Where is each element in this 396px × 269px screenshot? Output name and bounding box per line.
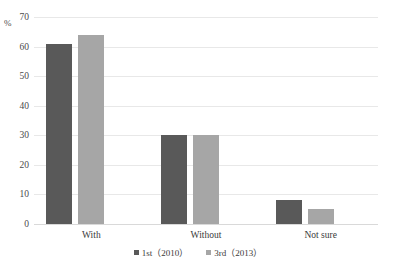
- legend-item-series-1[interactable]: 1st（2010）: [134, 246, 189, 259]
- bar-without-series-2: [193, 135, 219, 224]
- bar-not-sure-series-2: [308, 209, 334, 224]
- y-axis-unit-label: %: [4, 18, 12, 28]
- bar-with-series-2: [78, 35, 104, 224]
- gridline: [34, 224, 378, 225]
- y-axis-tick-label: 60: [20, 42, 30, 52]
- y-axis-tick-label: 10: [20, 189, 30, 199]
- bar-chart: % 010203040506070 WithWithoutNot sure 1s…: [0, 0, 396, 269]
- legend-swatch-series-2-icon: [206, 250, 211, 255]
- x-axis-category-label: With: [82, 230, 101, 240]
- y-axis-tick-label: 30: [20, 130, 30, 140]
- legend-item-series-2[interactable]: 3rd（2013）: [206, 246, 262, 259]
- gridline: [34, 17, 378, 18]
- bar-without-series-1: [161, 135, 187, 224]
- chart-legend: 1st（2010）3rd（2013）: [0, 246, 396, 259]
- y-axis-tick-label: 40: [20, 101, 30, 111]
- legend-swatch-series-1-icon: [134, 250, 139, 255]
- legend-label: 3rd（2013）: [214, 246, 262, 259]
- y-axis-tick-label: 50: [20, 71, 30, 81]
- y-axis-tick-label: 70: [20, 12, 30, 22]
- y-axis-tick-label: 20: [20, 160, 30, 170]
- x-axis-category-label: Without: [191, 230, 222, 240]
- bar-with-series-1: [46, 44, 72, 224]
- plot-area: 010203040506070 WithWithoutNot sure: [34, 17, 378, 224]
- legend-label: 1st（2010）: [142, 246, 189, 259]
- y-axis-tick-label: 0: [24, 219, 29, 229]
- x-axis-category-label: Not sure: [304, 230, 336, 240]
- bar-not-sure-series-1: [276, 200, 302, 224]
